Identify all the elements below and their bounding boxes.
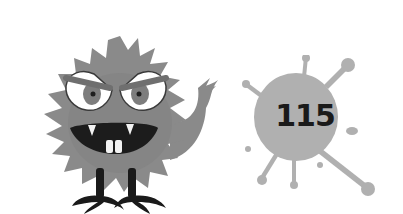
monster-illustration xyxy=(20,28,220,214)
illustration-scene: 115 xyxy=(0,0,403,214)
splat-number: 115 xyxy=(263,98,347,133)
